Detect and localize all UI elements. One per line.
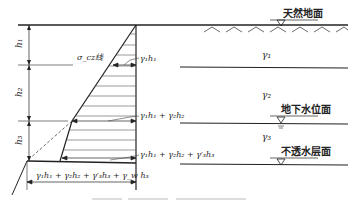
water-table-marker-icon bbox=[277, 117, 285, 123]
faint-caption bbox=[92, 198, 246, 200]
impermeable-label: 不透水层面 bbox=[281, 145, 331, 157]
gamma2-label: γ₂ bbox=[262, 90, 271, 100]
bottom-stress-line bbox=[27, 161, 136, 163]
impermeable-layer-line bbox=[180, 164, 348, 165]
soil-stress-diagram: 天然地面 γ₁ γ₂ 地下水位面 γ₃ 不透水层面 bbox=[0, 0, 358, 204]
stress-value-2: γ₁h₁ + γ₂h₂ bbox=[140, 111, 184, 120]
h3-label: h₃ bbox=[14, 135, 24, 145]
ground-hatch-icon bbox=[204, 27, 348, 32]
ground-label: 天然地面 bbox=[283, 7, 323, 19]
h2-label: h₂ bbox=[14, 87, 24, 97]
stress-curve-label: σ_cz线 bbox=[77, 53, 104, 62]
layer-boundary-1 bbox=[180, 67, 348, 68]
stress-hatching bbox=[64, 34, 136, 150]
water-table-label: 地下水位面 bbox=[281, 103, 331, 115]
stress-value-3: γ₁h₁ + γ₂h₂ + γ′₃h₃ bbox=[140, 150, 214, 159]
stress-value-4: γ₁h₁ + γ₂h₂ + γ′₃h₃ + γ_w h₃ bbox=[36, 171, 149, 180]
stress-curve bbox=[60, 25, 136, 161]
h1-label: h₁ bbox=[14, 39, 24, 48]
gamma3-label: γ₃ bbox=[262, 132, 271, 142]
stress-value-1: γ₁h₁ bbox=[140, 54, 156, 63]
water-table-line bbox=[180, 123, 348, 124]
gamma1-label: γ₁ bbox=[262, 50, 271, 60]
dashed-extension bbox=[27, 121, 72, 161]
